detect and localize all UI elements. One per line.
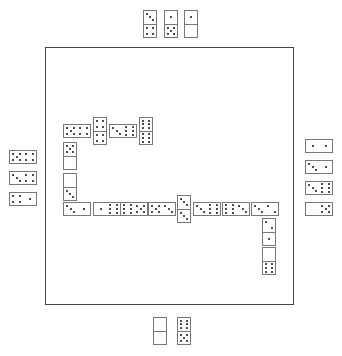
pips-0-icon (306, 203, 319, 215)
pips-4-icon (94, 118, 106, 132)
hand-right-domino[interactable] (305, 202, 333, 216)
pips-6-icon (140, 132, 152, 145)
pips-0-icon (263, 248, 275, 262)
pips-0-icon (64, 157, 76, 170)
board-domino (63, 142, 77, 170)
pips-1-icon (185, 11, 197, 25)
pips-1-icon (263, 233, 275, 246)
board-domino (120, 202, 148, 216)
pips-6-icon (178, 318, 190, 332)
pips-6-icon (263, 262, 275, 275)
pips-6-icon (121, 203, 134, 215)
board-domino (193, 202, 221, 216)
board-domino (93, 202, 121, 216)
board-domino (222, 202, 250, 216)
pips-5-icon (165, 25, 177, 38)
hand-bottom-domino[interactable] (177, 317, 191, 345)
pips-3-icon (162, 203, 175, 215)
pips-3-icon (64, 203, 77, 215)
pips-0-icon (185, 25, 197, 38)
pips-3-icon (194, 203, 207, 215)
pips-1-icon (23, 193, 36, 205)
pips-3-icon (10, 172, 23, 184)
pips-3-icon (110, 125, 123, 137)
pips-2-icon (263, 219, 275, 233)
pips-1-icon (77, 203, 90, 215)
hand-bottom-domino[interactable] (153, 317, 167, 345)
board-domino (177, 195, 191, 223)
pips-6-icon (107, 203, 120, 215)
pips-5-icon (134, 203, 147, 215)
board-domino (262, 218, 276, 246)
pips-4-icon (23, 172, 36, 184)
pips-3-icon (306, 161, 319, 173)
board-domino (262, 247, 276, 275)
pips-5-icon (10, 151, 23, 163)
pips-5-icon (64, 143, 76, 157)
pips-0-icon (64, 174, 76, 188)
board-domino (109, 124, 137, 138)
hand-right-domino[interactable] (305, 160, 333, 174)
pips-6-icon (207, 203, 220, 215)
pips-6-icon (319, 182, 332, 194)
board-domino (63, 202, 91, 216)
board-domino (139, 117, 153, 145)
pips-5-icon (178, 332, 190, 345)
hand-right-domino[interactable] (305, 181, 333, 195)
pips-3-icon (252, 203, 265, 215)
pips-4-icon (77, 125, 90, 137)
pips-0-icon (154, 318, 166, 332)
board-domino (251, 202, 279, 216)
pips-2-icon (265, 203, 278, 215)
pips-0-icon (154, 332, 166, 345)
pips-5-icon (149, 203, 162, 215)
board-domino (93, 117, 107, 145)
pips-3-icon (178, 196, 190, 210)
board-domino (63, 173, 77, 201)
pips-3-icon (236, 203, 249, 215)
pips-4-icon (10, 193, 23, 205)
pips-3-icon (144, 11, 156, 25)
board-domino (148, 202, 176, 216)
pips-3-icon (306, 182, 319, 194)
hand-left-domino[interactable] (9, 192, 37, 206)
pips-6-icon (223, 203, 236, 215)
hand-top-domino[interactable] (143, 10, 157, 38)
pips-1-icon (165, 11, 177, 25)
hand-right-domino[interactable] (305, 139, 333, 153)
game-board (45, 47, 294, 305)
board-domino (63, 124, 91, 138)
pips-1-icon (319, 161, 332, 173)
pips-5-icon (319, 203, 332, 215)
pips-1-icon (306, 140, 319, 152)
hand-left-domino[interactable] (9, 150, 37, 164)
pips-4-icon (23, 151, 36, 163)
pips-6-icon (140, 118, 152, 132)
pips-3-icon (178, 210, 190, 223)
pips-1-icon (319, 140, 332, 152)
pips-6-icon (123, 125, 136, 137)
pips-5-icon (64, 125, 77, 137)
hand-top-domino[interactable] (184, 10, 198, 38)
pips-4-icon (144, 25, 156, 38)
hand-left-domino[interactable] (9, 171, 37, 185)
pips-3-icon (64, 188, 76, 201)
pips-4-icon (94, 132, 106, 145)
pips-1-icon (94, 203, 107, 215)
hand-top-domino[interactable] (164, 10, 178, 38)
